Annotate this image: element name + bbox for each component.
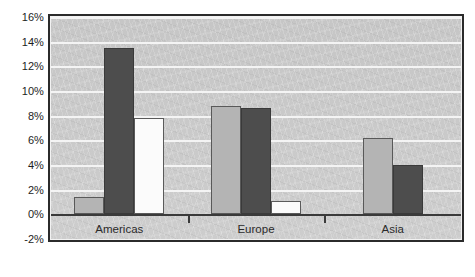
x-axis-category-label: Europe xyxy=(237,223,274,235)
x-axis-tickmark xyxy=(324,216,326,223)
y-axis-tick-label: -2% xyxy=(24,233,44,245)
y-axis-tick-label: 4% xyxy=(28,159,44,171)
bar xyxy=(74,197,104,214)
y-axis-tick-label: 12% xyxy=(22,60,44,72)
bar xyxy=(363,138,393,214)
y-axis: 16%14%12%10%8%6%4%2%0%-2% xyxy=(0,0,44,277)
y-axis-tick-label: 16% xyxy=(22,11,44,23)
bars-layer xyxy=(51,17,461,214)
x-axis-category-label: Asia xyxy=(381,223,403,235)
plot-frame xyxy=(48,14,464,242)
y-axis-tick-label: 10% xyxy=(22,85,44,97)
y-axis-tick-label: 6% xyxy=(28,134,44,146)
plot-inner xyxy=(50,16,462,240)
x-axis-category-label: Americas xyxy=(95,223,143,235)
bar xyxy=(241,108,271,214)
bar xyxy=(393,165,423,214)
zero-axis-line xyxy=(51,214,461,216)
chart-caption xyxy=(0,263,475,277)
y-axis-tick-label: 0% xyxy=(28,208,44,220)
x-axis-tickmark xyxy=(188,216,190,223)
bar xyxy=(134,118,164,214)
y-axis-tick-label: 2% xyxy=(28,184,44,196)
y-axis-tick-label: 14% xyxy=(22,36,44,48)
bar xyxy=(211,106,241,215)
y-axis-tick-label: 8% xyxy=(28,110,44,122)
bar xyxy=(104,48,134,215)
bar-chart: 16%14%12%10%8%6%4%2%0%-2% AmericasEurope… xyxy=(0,0,475,277)
bar xyxy=(271,201,301,215)
